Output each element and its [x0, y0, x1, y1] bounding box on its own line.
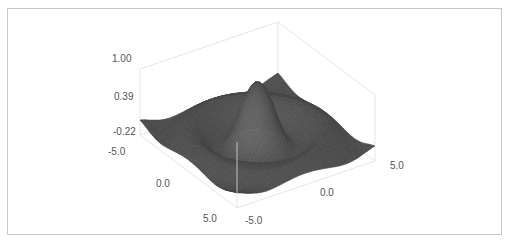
left-axis-tick-max: 5.0: [203, 213, 217, 224]
left-axis-tick-mid: 0.0: [156, 178, 170, 189]
right-axis-tick-mid: 0.0: [320, 187, 334, 198]
left-axis-tick-min: -5.0: [108, 146, 126, 157]
right-axis-tick-max: 5.0: [390, 160, 404, 171]
z-tick-mid: 0.39: [114, 91, 134, 102]
surface-plot: 1.00 0.39 -0.22 -5.0 0.0 5.0 -5.0 0.0 5.…: [0, 0, 510, 243]
z-tick-top: 1.00: [112, 53, 132, 64]
z-tick-bottom: -0.22: [113, 126, 136, 137]
right-axis-tick-min: -5.0: [245, 215, 263, 226]
surface-mesh: [140, 73, 375, 193]
